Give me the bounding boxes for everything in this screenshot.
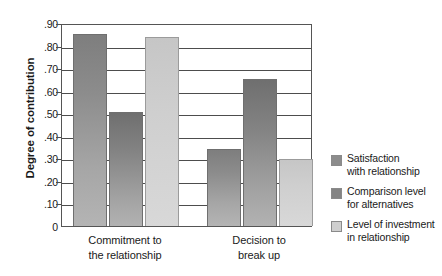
y-tick-label: .30 [18,154,58,164]
bar [145,37,179,226]
x-group-label-line: Commitment to [50,233,200,248]
plot-area [61,24,312,227]
bar-chart-figure: Degree of contribution 0.10.20.30.40.50.… [0,0,442,276]
legend-label: Satisfaction with relationship [347,152,420,178]
y-tick-label: .90 [18,19,58,29]
y-tick-label: .20 [18,177,58,187]
legend-item: Comparison level for alternatives [331,185,442,211]
legend-swatch-icon [331,188,342,199]
x-group-label-line: the relationship [50,248,200,263]
legend-swatch-icon [331,155,342,166]
bar [73,34,107,226]
y-tick-label: .10 [18,199,58,209]
y-tick-label: .70 [18,64,58,74]
legend-swatch-icon [331,221,342,232]
x-group-label-line: break up [184,248,334,263]
chart-legend: Satisfaction with relationshipComparison… [331,152,442,251]
bar [243,79,277,226]
x-group-label-line: Decision to [184,233,334,248]
y-tick-label: .60 [18,87,58,97]
y-tick-label: .40 [18,132,58,142]
y-tick-label: .80 [18,42,58,52]
legend-item: Satisfaction with relationship [331,152,442,178]
legend-label: Level of investment in relationship [347,218,435,244]
y-tick-label: .50 [18,109,58,119]
legend-label: Comparison level for alternatives [347,185,426,211]
y-tick-label: 0 [18,222,58,232]
bar [109,112,143,226]
bar [279,159,313,226]
x-group-label: Decision tobreak up [184,233,334,262]
legend-item: Level of investment in relationship [331,218,442,244]
x-group-label: Commitment tothe relationship [50,233,200,262]
bar [207,149,241,226]
